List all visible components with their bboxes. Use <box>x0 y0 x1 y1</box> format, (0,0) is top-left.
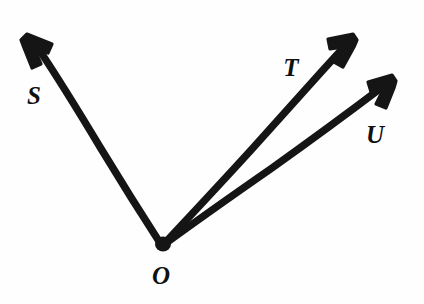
label-t: T <box>283 54 300 81</box>
ray-os-shaft <box>38 48 162 246</box>
ray-ot-shaft <box>162 47 344 246</box>
ray-ou-arrowhead <box>368 75 396 108</box>
figure-canvas: S T U O <box>0 0 424 304</box>
label-o: O <box>152 262 170 289</box>
label-u: U <box>366 121 386 148</box>
ray-ou-shaft <box>162 88 381 246</box>
geometry-diagram: S T U O <box>0 0 424 304</box>
vertex-o-dot <box>155 237 171 252</box>
label-s: S <box>27 82 41 109</box>
